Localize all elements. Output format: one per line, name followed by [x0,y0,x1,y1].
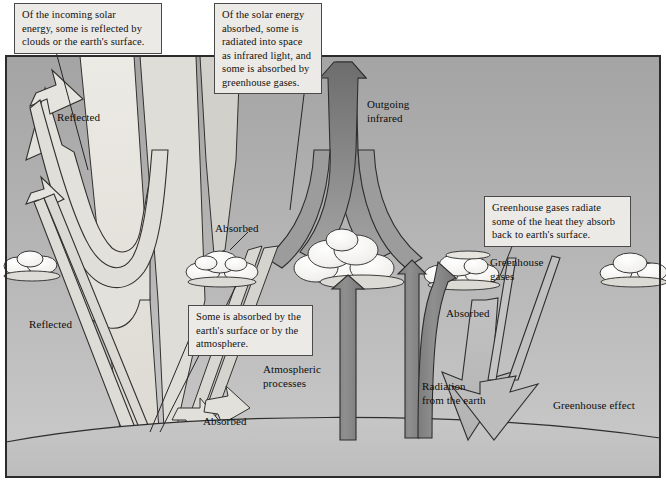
label-greenhouse-effect: Greenhouse effect [553,398,635,412]
label-outgoing-infrared: Outgoing infrared [367,97,409,125]
callout-surface-absorption: Some is absorbed by the earth's surface … [188,305,313,356]
label-reflected-lower: Reflected [29,317,72,331]
label-atmospheric-processes: Atmospheric processes [263,362,321,390]
callout-incoming-solar: Of the incoming solar energy, some is re… [14,3,162,54]
label-absorbed-cloud-right: Absorbed [446,306,490,320]
label-radiation-from-earth: Radiation from the earth [422,379,486,407]
label-reflected-upper: Reflected [57,110,100,124]
callout-solar-absorbed: Of the solar energy absorbed, some is ra… [214,3,322,94]
label-greenhouse-gases: Greenhouse gases [490,255,544,283]
greenhouse-effect-diagram: Of the incoming solar energy, some is re… [0,0,666,483]
label-absorbed-cloud-left: Absorbed [215,221,259,235]
cloud-wisp [446,251,490,259]
callout-greenhouse-radiate: Greenhouse gases radiate some of the hea… [484,196,631,247]
label-absorbed-surface: Absorbed [203,414,247,428]
